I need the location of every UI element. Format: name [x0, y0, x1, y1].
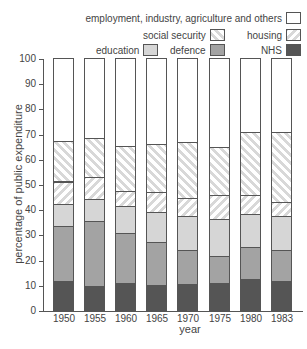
bar-segment-education: [115, 206, 136, 234]
legend-label-nhs: NHS: [261, 45, 282, 56]
bar-segment-nhs: [177, 284, 198, 311]
legend-label-education: education: [96, 45, 139, 56]
bar-segment-social-security: [84, 138, 105, 178]
bar-segment-nhs: [53, 281, 74, 311]
bar-1970: [177, 59, 198, 311]
legend-swatch-social-security: [210, 29, 225, 41]
x-tick-label: 1955: [79, 313, 111, 324]
legend-swatch-defence: [210, 44, 225, 56]
bar-segment-other: [115, 58, 136, 147]
bar-segment-social-security: [177, 142, 198, 199]
bar-segment-social-security: [115, 146, 136, 192]
bar-segment-housing: [209, 195, 230, 220]
bar-segment-education: [271, 216, 292, 251]
bar-segment-education: [53, 204, 74, 226]
bar-segment-housing: [115, 191, 136, 207]
bar-1950: [53, 59, 74, 311]
x-tick-label: 1980: [235, 313, 267, 324]
bar-segment-social-security: [209, 147, 230, 195]
bar-segment-nhs: [146, 285, 167, 311]
bar-segment-nhs: [84, 286, 105, 311]
bar-segment-defence: [271, 250, 292, 282]
y-tick-mark: [39, 185, 43, 186]
bar-segment-defence: [177, 250, 198, 285]
bar-segment-social-security: [53, 141, 74, 182]
bar-segment-defence: [146, 242, 167, 286]
bar-1980: [240, 59, 261, 311]
bar-segment-housing: [177, 198, 198, 217]
y-tick-mark: [39, 311, 43, 312]
x-tick-label: 1950: [48, 313, 80, 324]
bar-segment-nhs: [115, 283, 136, 311]
bar-segment-other: [240, 58, 261, 133]
legend-label-other: employment, industry, agriculture and ot…: [85, 13, 282, 24]
bar-segment-social-security: [146, 144, 167, 193]
bar-segment-other: [209, 58, 230, 148]
y-axis-label: percentage of public expenditure: [12, 104, 24, 264]
bar-segment-housing: [84, 177, 105, 200]
legend-swatch-other: [286, 12, 301, 24]
y-tick-mark: [39, 135, 43, 136]
legend-item-housing: housing: [247, 29, 301, 41]
legend-label-social-security: social security: [143, 30, 206, 41]
legend-label-housing: housing: [247, 30, 282, 41]
x-tick-label: 1970: [172, 313, 204, 324]
x-tick-label: 1960: [110, 313, 142, 324]
bar-segment-defence: [53, 226, 74, 282]
y-tick-label: 90: [6, 79, 36, 89]
y-tick-mark: [39, 235, 43, 236]
y-tick-mark: [39, 109, 43, 110]
bar-segment-other: [177, 58, 198, 143]
legend-item-other: employment, industry, agriculture and ot…: [85, 12, 301, 24]
bar-segment-social-security: [271, 132, 292, 203]
bar-segment-housing: [240, 195, 261, 215]
bar-segment-nhs: [271, 281, 292, 311]
x-tick-label: 1983: [266, 313, 298, 324]
x-axis-line: [43, 311, 303, 312]
bar-segment-defence: [240, 247, 261, 280]
bar-1965: [146, 59, 167, 311]
bar-segment-defence: [84, 221, 105, 287]
legend-swatch-nhs: [286, 44, 301, 56]
y-tick-mark: [39, 210, 43, 211]
bar-segment-other: [271, 58, 292, 133]
bar-segment-other: [53, 58, 74, 142]
legend-item-education: education: [96, 44, 158, 56]
legend-swatch-education: [143, 44, 158, 56]
bar-1955: [84, 59, 105, 311]
bar-segment-nhs: [240, 279, 261, 311]
bar-segment-housing: [146, 192, 167, 212]
legend-item-nhs: NHS: [261, 44, 301, 56]
bar-1975: [209, 59, 230, 311]
bar-segment-education: [177, 216, 198, 251]
bar-segment-education: [84, 199, 105, 222]
legend-item-defence: defence: [170, 44, 225, 56]
bar-segment-housing: [271, 202, 292, 217]
bar-segment-education: [146, 212, 167, 243]
bar-segment-education: [240, 214, 261, 248]
bar-1983: [271, 59, 292, 311]
bar-segment-housing: [53, 182, 74, 206]
y-tick-mark: [39, 160, 43, 161]
bar-segment-social-security: [240, 132, 261, 196]
bar-1960: [115, 59, 136, 311]
bar-segment-nhs: [209, 283, 230, 311]
bar-segment-education: [209, 219, 230, 257]
y-tick-label: 10: [6, 281, 36, 291]
x-tick-label: 1965: [141, 313, 173, 324]
bar-segment-defence: [115, 233, 136, 284]
y-tick-mark: [39, 261, 43, 262]
bar-segment-other: [146, 58, 167, 145]
x-axis-label: year: [160, 323, 220, 335]
y-tick-mark: [39, 286, 43, 287]
y-tick-label: 100: [6, 54, 36, 64]
legend-label-defence: defence: [170, 45, 206, 56]
y-tick-mark: [39, 59, 43, 60]
bar-segment-other: [84, 58, 105, 139]
legend-swatch-housing: [286, 29, 301, 41]
x-tick-label: 1975: [204, 313, 236, 324]
y-tick-label: 0: [6, 306, 36, 316]
y-tick-mark: [39, 84, 43, 85]
y-axis-line: [43, 59, 44, 312]
legend-item-social-security: social security: [143, 29, 225, 41]
